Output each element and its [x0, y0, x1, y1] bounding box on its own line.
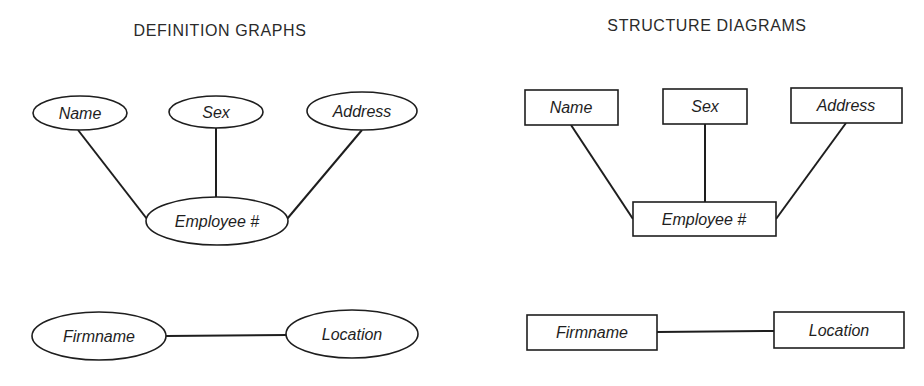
node-sex: Sex [663, 89, 747, 124]
edge-address-employee [287, 130, 362, 219]
node-location: Location [774, 312, 904, 348]
node-firmname: Firmname [527, 315, 657, 350]
node-location: Location [286, 310, 418, 358]
node-label: Sex [691, 98, 720, 115]
definition-graphs-title: DEFINITION GRAPHS [134, 22, 307, 39]
node-label: Sex [202, 104, 231, 121]
node-label: Location [809, 322, 870, 339]
node-label: Firmname [63, 328, 135, 345]
node-label: Firmname [556, 324, 628, 341]
node-firmname: Firmname [32, 312, 166, 360]
node-label: Name [59, 105, 102, 122]
definition-graphs-panel: DEFINITION GRAPHS Name Sex Address Emplo… [32, 22, 418, 360]
edge-firmname-location [166, 335, 287, 336]
node-sex: Sex [169, 96, 263, 128]
node-address: Address [307, 92, 417, 130]
edge-address-employee [776, 123, 846, 219]
structure-diagrams-panel: STRUCTURE DIAGRAMS Name Sex Address Empl… [525, 17, 904, 350]
node-name: Name [33, 96, 127, 130]
node-employee-number: Employee # [633, 202, 776, 236]
edge-name-employee [78, 130, 147, 219]
edge-firmname-location [657, 331, 774, 332]
structure-diagrams-title: STRUCTURE DIAGRAMS [607, 17, 806, 34]
node-label: Location [322, 326, 383, 343]
edge-name-employee [571, 125, 633, 219]
node-label: Address [816, 97, 876, 114]
node-label: Address [332, 103, 392, 120]
node-address: Address [791, 88, 902, 123]
diagram-canvas: DEFINITION GRAPHS Name Sex Address Emplo… [0, 0, 924, 386]
node-employee-number: Employee # [146, 197, 288, 245]
node-name: Name [525, 90, 618, 125]
node-label: Employee # [662, 211, 748, 228]
node-label: Name [550, 99, 593, 116]
node-label: Employee # [175, 213, 261, 230]
